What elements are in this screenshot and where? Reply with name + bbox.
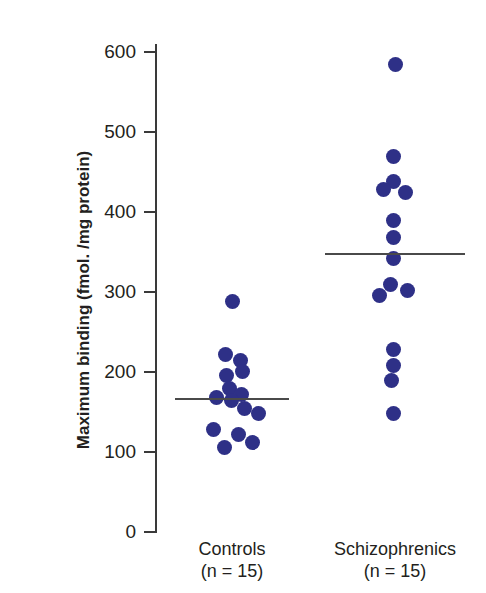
data-point — [386, 406, 401, 421]
y-axis-tick-label: 100 — [82, 442, 136, 461]
data-point — [386, 213, 401, 228]
y-axis-tick-label-text: 600 — [82, 42, 136, 61]
data-point — [372, 288, 387, 303]
y-axis-tick — [144, 211, 155, 213]
data-point — [251, 406, 266, 421]
data-point — [235, 364, 250, 379]
mean-line — [175, 398, 289, 400]
data-point — [245, 435, 260, 450]
y-axis-tick-label-text: 100 — [82, 442, 136, 461]
group-count: (n = 15) — [142, 560, 322, 582]
data-point — [398, 185, 413, 200]
y-axis-tick — [144, 131, 155, 133]
data-point — [217, 440, 232, 455]
y-axis-tick — [144, 51, 155, 53]
data-point — [225, 294, 240, 309]
group-label-schizophrenics: Schizophrenics(n = 15) — [305, 538, 485, 582]
y-axis-tick-label: 600 — [82, 42, 136, 61]
y-axis-tick-label-text: 400 — [82, 202, 136, 221]
y-axis-tick — [144, 531, 155, 533]
y-axis-tick — [144, 451, 155, 453]
mean-line — [325, 253, 465, 255]
data-point — [386, 230, 401, 245]
y-axis-tick — [144, 291, 155, 293]
y-axis-tick-label-text: 0 — [82, 522, 136, 541]
y-axis-tick-label: 400 — [82, 202, 136, 221]
data-point — [400, 283, 415, 298]
y-axis-tick-label-text: 500 — [82, 122, 136, 141]
data-point — [384, 373, 399, 388]
y-axis-tick-label-text: 300 — [82, 282, 136, 301]
y-axis-tick-label: 500 — [82, 122, 136, 141]
y-axis-tick-label: 200 — [82, 362, 136, 381]
data-point — [386, 358, 401, 373]
group-label-controls: Controls(n = 15) — [142, 538, 322, 582]
scatter-plot-figure: Maximum binding (fmol. /mg protein) 0100… — [0, 0, 486, 593]
group-name: Controls — [198, 539, 265, 559]
data-point — [206, 422, 221, 437]
y-axis-tick-label: 0 — [82, 522, 136, 541]
data-point — [388, 57, 403, 72]
y-axis-tick-label-text: 200 — [82, 362, 136, 381]
group-name: Schizophrenics — [334, 539, 456, 559]
data-point — [386, 342, 401, 357]
y-axis-tick-label: 300 — [82, 282, 136, 301]
data-point — [237, 401, 252, 416]
data-point — [386, 149, 401, 164]
group-count: (n = 15) — [305, 560, 485, 582]
data-point — [231, 427, 246, 442]
data-point — [218, 347, 233, 362]
y-axis-tick — [144, 371, 155, 373]
y-axis-line — [155, 44, 157, 533]
data-point — [376, 182, 391, 197]
